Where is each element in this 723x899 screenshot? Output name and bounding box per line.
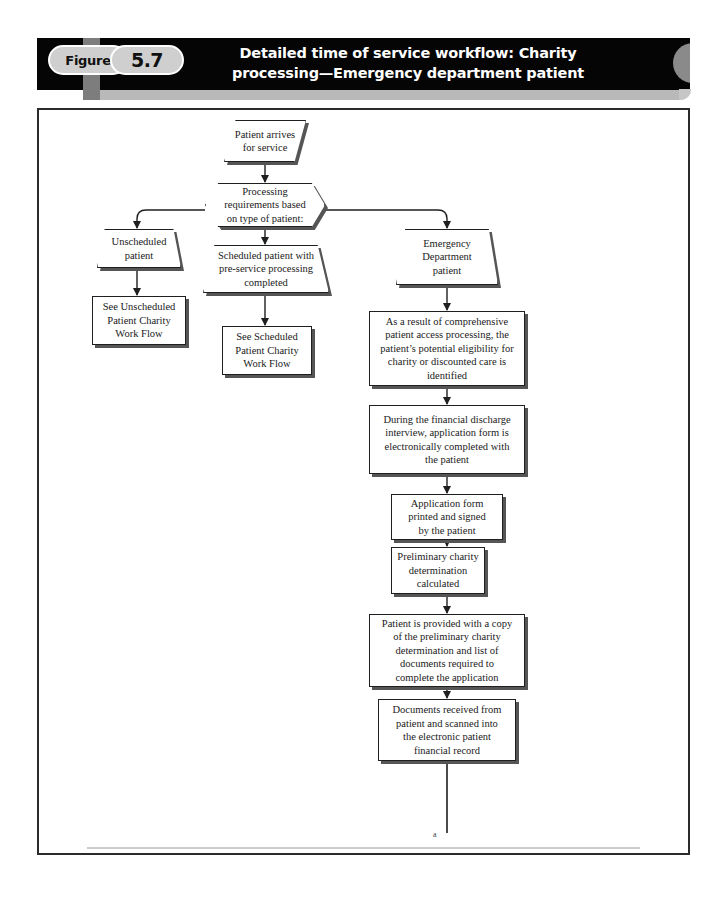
node-financial-discharge-interview: During the financial dischargeinterview,… <box>369 405 525 474</box>
node-label: Scheduled patient withpre-service proces… <box>203 245 329 293</box>
header-edge-mask <box>690 30 723 100</box>
node-label: Patient arrivesfor service <box>224 120 306 162</box>
node-processing-requirements: Processingrequirements basedon type of p… <box>205 183 325 227</box>
node-documents-received-scanned: Documents received frompatient and scann… <box>378 699 516 761</box>
node-label: Preliminary charitydeterminationcalculat… <box>392 550 484 591</box>
node-label: Unscheduledpatient <box>97 229 181 268</box>
node-label: During the financial dischargeinterview,… <box>370 413 524 467</box>
figure-number-pill: 5.7 <box>110 45 184 75</box>
node-unscheduled-patient: Unscheduledpatient <box>97 229 181 268</box>
node-label: As a result of comprehensivepatient acce… <box>370 315 524 383</box>
figure-label-text: Figure <box>65 53 110 68</box>
node-label: EmergencyDepartmentpatient <box>396 229 498 285</box>
figure-page-frame <box>37 108 690 855</box>
node-scheduled-patient: Scheduled patient withpre-service proces… <box>203 245 329 293</box>
node-label: See ScheduledPatient CharityWork Flow <box>223 330 311 371</box>
node-preliminary-determination: Preliminary charitydeterminationcalculat… <box>391 547 485 594</box>
figure-title-line-1: Detailed time of service workflow: Chari… <box>239 45 576 61</box>
node-see-scheduled-workflow: See ScheduledPatient CharityWork Flow <box>222 326 312 375</box>
page-bottom-rule <box>87 847 640 849</box>
node-emergency-department-patient: EmergencyDepartmentpatient <box>396 229 498 285</box>
figure-title-line-2: processing—Emergency department patient <box>232 65 584 81</box>
node-label: Application formprinted and signedby the… <box>392 497 502 538</box>
node-label: Patient is provided with a copyof the pr… <box>370 617 524 685</box>
offpage-connector-label: a <box>433 830 437 839</box>
node-patient-provided-copy: Patient is provided with a copyof the pr… <box>369 614 525 687</box>
node-application-printed-signed: Application formprinted and signedby the… <box>391 494 503 540</box>
node-label: Processingrequirements basedon type of p… <box>205 183 325 227</box>
node-label: See UnscheduledPatient CharityWork Flow <box>93 300 185 341</box>
header-shadow-bar <box>83 90 690 100</box>
node-patient-arrives: Patient arrivesfor service <box>224 120 306 162</box>
node-label: Documents received frompatient and scann… <box>379 703 515 757</box>
node-eligibility-identified: As a result of comprehensivepatient acce… <box>369 311 525 386</box>
figure-title: Detailed time of service workflow: Chari… <box>198 43 618 83</box>
node-see-unscheduled-workflow: See UnscheduledPatient CharityWork Flow <box>92 296 186 345</box>
figure-number-text: 5.7 <box>131 49 163 71</box>
